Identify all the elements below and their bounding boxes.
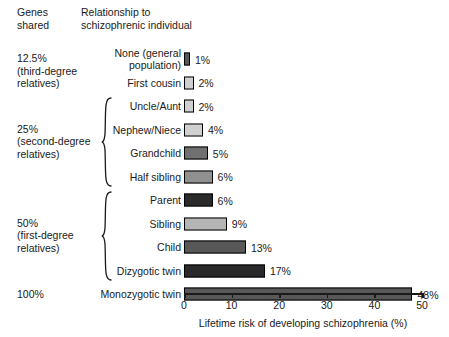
bar-value-label: 1% (195, 53, 210, 65)
table-row: Uncle/Aunt2% (0, 95, 449, 119)
bar-group: 5% (184, 147, 228, 160)
bar-value-label: 4% (208, 124, 223, 136)
bar (184, 100, 194, 113)
category-label: Dizygotic twin (117, 265, 181, 277)
bar (184, 170, 213, 183)
category-label: Grandchild (130, 147, 181, 159)
table-row: Half sibling6% (0, 165, 449, 189)
bar-group: 2% (184, 100, 214, 113)
x-axis-tick-label: 0 (181, 299, 187, 311)
x-axis-tick-label: 10 (226, 299, 238, 311)
bar-value-label: 2% (199, 100, 214, 112)
bar (184, 241, 246, 254)
bar (184, 147, 208, 160)
column-header-genes-shared: Genes shared (17, 6, 49, 31)
category-label: None (general population) (114, 47, 181, 71)
bar-value-label: 6% (218, 194, 233, 206)
bar-value-label: 2% (199, 77, 214, 89)
x-axis-line (184, 293, 422, 295)
x-axis-tick (232, 293, 234, 298)
table-row: Sibling9% (0, 212, 449, 236)
category-label: Parent (150, 194, 181, 206)
bar-group: 6% (184, 170, 233, 183)
x-axis-tick (422, 293, 424, 298)
category-label: Monozygotic twin (100, 288, 181, 300)
table-row: Dizygotic twin17% (0, 259, 449, 283)
x-axis-tick-label: 40 (369, 299, 381, 311)
table-row: First cousin2% (0, 71, 449, 95)
schizophrenia-risk-chart: Genes shared Relationship to schizophren… (0, 0, 449, 337)
category-label: Child (157, 241, 181, 253)
bar-group: 1% (184, 53, 210, 66)
x-axis-tick (327, 293, 329, 298)
category-label: Nephew/Niece (113, 124, 181, 136)
bar-value-label: 13% (251, 241, 272, 253)
bar-value-label: 5% (213, 147, 228, 159)
category-label: Half sibling (130, 171, 181, 183)
x-axis-tick-label: 20 (273, 299, 285, 311)
table-row: None (general population)1% (0, 48, 449, 72)
bar-value-label: 17% (270, 265, 291, 277)
bar (184, 123, 203, 136)
x-axis-tick (374, 293, 376, 298)
bar-value-label: 9% (232, 218, 247, 230)
column-header-relationship: Relationship to schizophrenic individual (81, 6, 192, 31)
x-axis-tick-label: 50 (416, 299, 428, 311)
category-label: Sibling (149, 218, 181, 230)
bar-group: 9% (184, 217, 247, 230)
x-axis-tick (184, 293, 186, 298)
table-row: Grandchild5% (0, 142, 449, 166)
table-row: Parent6% (0, 189, 449, 213)
bar (184, 194, 213, 207)
bar (184, 217, 227, 230)
bar-group: 6% (184, 194, 233, 207)
table-row: Child13% (0, 236, 449, 260)
bar-group: 13% (184, 241, 272, 254)
bar (184, 264, 265, 277)
bar-group: 2% (184, 76, 214, 89)
x-axis-tick (279, 293, 281, 298)
bar-group: 4% (184, 123, 223, 136)
category-label: First cousin (127, 77, 181, 89)
bar-value-label: 6% (218, 171, 233, 183)
table-row: Nephew/Niece4% (0, 118, 449, 142)
x-axis-title: Lifetime risk of developing schizophreni… (184, 317, 422, 329)
category-label: Uncle/Aunt (130, 100, 181, 112)
bar (184, 76, 194, 89)
bar (184, 53, 190, 66)
bar-group: 17% (184, 264, 291, 277)
x-axis-tick-label: 30 (321, 299, 333, 311)
